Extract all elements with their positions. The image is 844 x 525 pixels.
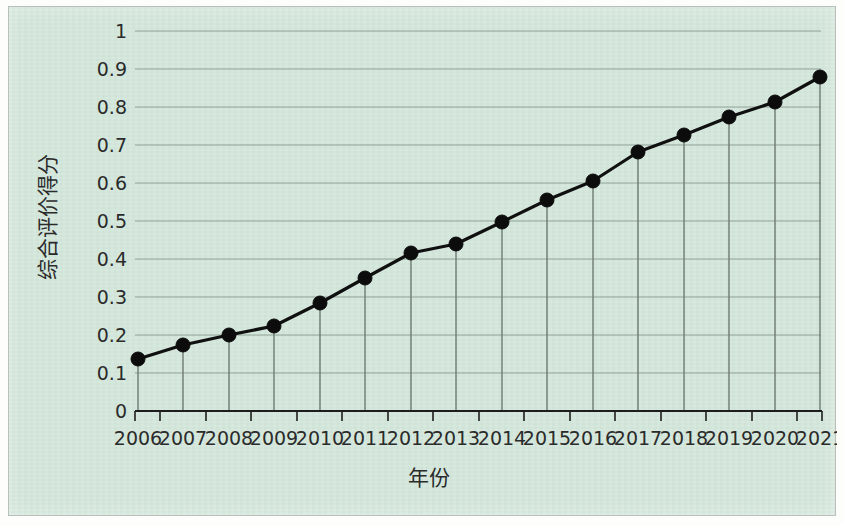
data-point-2019[interactable] [722,110,736,124]
y-tick-label-7: 0.7 [97,134,127,156]
data-point-2018[interactable] [677,128,691,142]
x-tick-label-2013: 2013 [432,427,480,449]
y-tick-label-0: 0 [115,400,127,422]
x-tick-label-2011: 2011 [341,427,389,449]
x-axis-tick-labels: 2006 2007 2008 2009 2010 2011 2012 2013 … [114,427,837,449]
data-point-markers [131,70,827,366]
x-tick-label-2018: 2018 [660,427,708,449]
data-point-2010[interactable] [313,296,327,310]
y-tick-label-10: 1 [115,20,127,42]
data-point-2014[interactable] [495,215,509,229]
x-axis-title: 年份 [408,466,450,490]
x-tick-label-2019: 2019 [705,427,753,449]
data-point-2012[interactable] [404,246,418,260]
droplines [138,77,820,411]
x-tick-label-2009: 2009 [250,427,298,449]
x-tick-label-2008: 2008 [205,427,253,449]
figure-frame: 1 0.9 0.8 0.7 0.6 0.5 0.4 0.3 0.2 0.1 0 … [8,6,836,516]
data-point-2007[interactable] [176,338,190,352]
gridlines [135,31,821,373]
x-tick-label-2012: 2012 [387,427,435,449]
y-tick-label-4: 0.4 [97,248,127,270]
x-tick-label-2007: 2007 [159,427,207,449]
data-point-2006[interactable] [131,352,145,366]
x-tick-label-2010: 2010 [296,427,344,449]
data-point-2011[interactable] [358,271,372,285]
y-tick-label-5: 0.5 [97,210,127,232]
x-tick-label-2017: 2017 [614,427,662,449]
x-tick-label-2021: 2021 [796,427,837,449]
data-point-2017[interactable] [631,145,645,159]
y-axis-tick-labels: 1 0.9 0.8 0.7 0.6 0.5 0.4 0.3 0.2 0.1 0 [97,20,127,422]
x-tick-label-2015: 2015 [523,427,571,449]
x-tick-label-2020: 2020 [751,427,799,449]
data-point-2013[interactable] [449,237,463,251]
chart-canvas: 1 0.9 0.8 0.7 0.6 0.5 0.4 0.3 0.2 0.1 0 … [9,7,837,517]
data-point-2021[interactable] [813,70,827,84]
series-line-comprehensive-score [138,77,820,359]
screenshot-root: 1 0.9 0.8 0.7 0.6 0.5 0.4 0.3 0.2 0.1 0 … [0,0,844,525]
y-tick-label-6: 0.6 [97,172,127,194]
x-tick-label-2014: 2014 [478,427,526,449]
y-tick-label-8: 0.8 [97,96,127,118]
x-tick-label-2006: 2006 [114,427,162,449]
data-point-2020[interactable] [768,95,782,109]
x-axis [135,411,822,421]
y-axis-title: 综合评价得分 [36,154,60,280]
y-tick-label-3: 0.3 [97,286,127,308]
y-tick-label-2: 0.2 [97,324,127,346]
x-tick-label-2016: 2016 [569,427,617,449]
y-tick-label-1: 0.1 [97,362,127,384]
data-point-2016[interactable] [586,174,600,188]
line-chart: 1 0.9 0.8 0.7 0.6 0.5 0.4 0.3 0.2 0.1 0 … [9,7,835,515]
data-point-2015[interactable] [540,193,554,207]
y-tick-label-9: 0.9 [97,58,127,80]
data-point-2009[interactable] [267,319,281,333]
data-point-2008[interactable] [222,328,236,342]
